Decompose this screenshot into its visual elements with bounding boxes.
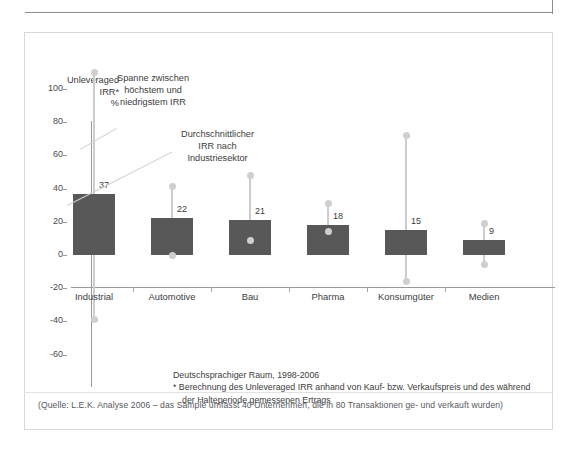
y-tick-mark: [63, 321, 67, 322]
callout-average-line-1: Durchschnittlicher: [181, 129, 254, 141]
y-tick-mark: [63, 255, 67, 256]
source-divider: [24, 392, 553, 393]
y-tick-mark: [63, 155, 67, 156]
y-tick-mark: [63, 222, 67, 223]
y-tick-mark: [63, 189, 67, 190]
y-tick-label: 100: [29, 83, 63, 93]
y-tick-label: -40: [29, 315, 63, 325]
x-axis-category-label: Konsumgüter: [367, 291, 445, 302]
chart-panel: Unleveraged IRR* % 100806040200-20-40-60…: [24, 32, 553, 430]
bar-value-label: 18: [333, 211, 343, 221]
callout-range-line-1: Spanne zwischen: [117, 73, 189, 85]
x-tick-mark: [367, 287, 368, 292]
y-tick-mark: [63, 122, 67, 123]
range-whisker-cap-min: [325, 228, 332, 235]
y-tick-label: 60: [29, 149, 63, 159]
callout-range-line-2: höchstem und: [117, 85, 189, 97]
header-divider-tick: [552, 0, 553, 14]
bar-value-label: 15: [411, 216, 421, 226]
bar[interactable]: [151, 218, 193, 255]
y-tick-label: 20: [29, 216, 63, 226]
x-tick-mark: [211, 287, 212, 292]
y-tick-label: 0: [29, 249, 63, 259]
y-tick-mark: [63, 288, 67, 289]
range-whisker-cap-max: [481, 220, 488, 227]
range-whisker-cap-min: [247, 237, 254, 244]
x-axis-category-label: Pharma: [289, 291, 367, 302]
range-whisker-cap-min: [169, 252, 176, 259]
callout-range-line-3: niedrigstem IRR: [117, 97, 189, 109]
y-tick-label: 40: [29, 183, 63, 193]
range-whisker-cap-max: [247, 172, 254, 179]
footnote-line-1: Deutschsprachiger Raum, 1998-2006: [173, 369, 553, 381]
callout-average-line-2: IRR nach: [181, 141, 254, 153]
range-whisker-line: [405, 135, 407, 281]
callout-average: Durchschnittlicher IRR nach Industriesek…: [181, 129, 254, 164]
callout-average-line-3: Industriesektor: [181, 153, 254, 165]
y-tick-mark: [63, 89, 67, 90]
bar[interactable]: [73, 194, 115, 255]
y-tick-mark: [63, 355, 67, 356]
range-whisker-cap-max: [91, 69, 98, 76]
x-tick-mark: [445, 287, 446, 292]
range-whisker-cap-max: [169, 183, 176, 190]
range-whisker-cap-min: [91, 316, 98, 323]
range-whisker-cap-min: [403, 278, 410, 285]
source-note: (Quelle: L.E.K. Analyse 2006 – das Sampl…: [38, 400, 543, 410]
callout-average-leader: [67, 151, 173, 205]
y-tick-label: -60: [29, 349, 63, 359]
x-axis-category-label: Medien: [445, 291, 523, 302]
x-tick-mark: [289, 287, 290, 292]
y-tick-label: 80: [29, 116, 63, 126]
bar[interactable]: [385, 230, 427, 255]
x-axis-line: [71, 287, 555, 288]
bar[interactable]: [463, 240, 505, 255]
x-tick-mark: [133, 287, 134, 292]
y-axis-title-line-3: %: [41, 98, 119, 110]
bar-value-label: 21: [255, 206, 265, 216]
x-axis-category-label: Bau: [211, 291, 289, 302]
header-divider: [25, 12, 553, 13]
bar-value-label: 22: [177, 204, 187, 214]
callout-range-leader: [80, 128, 117, 150]
x-axis-category-label: Industrial: [55, 291, 133, 302]
range-whisker-cap-max: [403, 132, 410, 139]
callout-range: Spanne zwischen höchstem und niedrigstem…: [117, 73, 189, 108]
range-whisker-cap-max: [325, 200, 332, 207]
range-whisker-cap-min: [481, 261, 488, 268]
bar-value-label: 9: [489, 226, 494, 236]
x-axis-category-label: Automotive: [133, 291, 211, 302]
